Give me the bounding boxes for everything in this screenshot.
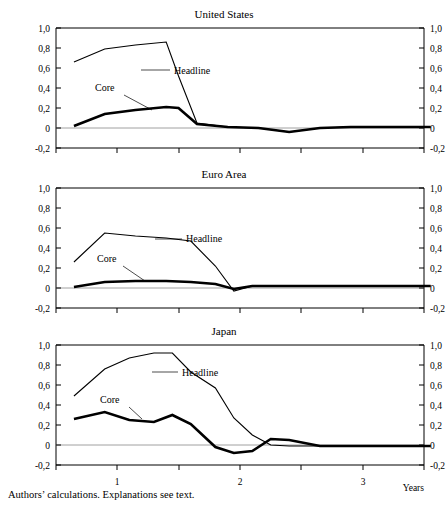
- y-label-left-4: 0,4: [38, 401, 50, 411]
- y-ticks-right: [419, 28, 424, 148]
- leader-line-core: [124, 95, 152, 110]
- y-label-left-7: -0,2: [35, 304, 50, 314]
- annotation-core: Core: [100, 394, 120, 405]
- y-label-left-7: -0,2: [35, 461, 50, 471]
- y-label-right-7: -0,2: [430, 304, 445, 314]
- plot-svg-united-states: 1,0 0,8 0,6 0,4 0,2 0 -0,2 1,0 0,8 0,6 0…: [0, 22, 448, 170]
- y-label-left-6: 0: [45, 441, 50, 451]
- x-label-3: 3: [361, 477, 366, 487]
- y-label-left-5: 0,2: [38, 421, 50, 431]
- figure-page: United States: [0, 0, 448, 509]
- series-line-core: [74, 412, 431, 453]
- y-label-right-3: 0,6: [430, 64, 442, 74]
- y-label-left-5: 0,2: [38, 104, 50, 114]
- plot-svg-euro-area: 1,0 0,8 0,6 0,4 0,2 0 -0,2 1,0 0,8 0,6 0…: [0, 182, 448, 330]
- y-label-left-2: 0,8: [38, 204, 50, 214]
- series-line-headline: [74, 353, 431, 446]
- plot-united-states: 1,0 0,8 0,6 0,4 0,2 0 -0,2 1,0 0,8 0,6 0…: [0, 22, 448, 170]
- y-label-left-6: 0: [45, 124, 50, 134]
- y-ticks-left: [56, 188, 61, 308]
- y-label-right-2: 0,8: [430, 44, 442, 54]
- y-label-right-2: 0,8: [430, 361, 442, 371]
- y-label-right-5: 0,2: [430, 264, 442, 274]
- panel-title-united-states: United States: [0, 8, 448, 20]
- y-label-left-5: 0,2: [38, 264, 50, 274]
- y-label-left-1: 1,0: [38, 184, 50, 194]
- leader-line-core: [123, 266, 145, 281]
- y-label-left-4: 0,4: [38, 244, 50, 254]
- x-axis-title: Years: [403, 483, 425, 493]
- y-label-right-7: -0,2: [430, 461, 445, 471]
- x-ticks: [56, 308, 424, 313]
- footnote: Authors’ calculations. Explanations see …: [8, 489, 194, 500]
- y-label-left-4: 0,4: [38, 84, 50, 94]
- y-label-left-3: 0,6: [38, 64, 50, 74]
- y-label-left-2: 0,8: [38, 361, 50, 371]
- annotation-headline: Headline: [174, 65, 211, 76]
- leader-line-core: [129, 407, 142, 419]
- y-label-right-4: 0,4: [430, 84, 442, 94]
- panel-title-japan: Japan: [0, 325, 448, 337]
- annotation-core: Core: [95, 82, 115, 93]
- y-label-right-3: 0,6: [430, 381, 442, 391]
- y-label-right-4: 0,4: [430, 401, 442, 411]
- x-ticks: [56, 465, 424, 470]
- y-label-left-1: 1,0: [38, 341, 50, 351]
- x-ticks: [56, 148, 424, 153]
- y-label-right-7: -0,2: [430, 144, 445, 154]
- panel-title-euro-area: Euro Area: [0, 168, 448, 180]
- plot-euro-area: 1,0 0,8 0,6 0,4 0,2 0 -0,2 1,0 0,8 0,6 0…: [0, 182, 448, 330]
- y-label-right-1: 1,0: [430, 24, 442, 34]
- y-label-right-5: 0,2: [430, 421, 442, 431]
- annotation-headline: Headline: [182, 367, 219, 378]
- annotation-headline: Headline: [186, 233, 223, 244]
- annotation-core: Core: [97, 253, 117, 264]
- y-label-right-6: 0: [430, 441, 435, 451]
- y-ticks-right: [419, 188, 424, 308]
- plot-japan: 1,0 0,8 0,6 0,4 0,2 0 -0,2 1,0 0,8 0,6 0…: [0, 339, 448, 499]
- y-label-right-3: 0,6: [430, 224, 442, 234]
- y-label-left-1: 1,0: [38, 24, 50, 34]
- y-label-left-7: -0,2: [35, 144, 50, 154]
- y-label-left-3: 0,6: [38, 381, 50, 391]
- y-label-left-3: 0,6: [38, 224, 50, 234]
- y-ticks-left: [56, 345, 61, 465]
- y-label-right-4: 0,4: [430, 244, 442, 254]
- x-label-2: 2: [238, 477, 243, 487]
- y-label-left-2: 0,8: [38, 44, 50, 54]
- y-label-right-1: 1,0: [430, 184, 442, 194]
- y-label-right-1: 1,0: [430, 341, 442, 351]
- y-label-right-2: 0,8: [430, 204, 442, 214]
- y-label-left-6: 0: [45, 284, 50, 294]
- plot-svg-japan: 1,0 0,8 0,6 0,4 0,2 0 -0,2 1,0 0,8 0,6 0…: [0, 339, 448, 499]
- x-label-1: 1: [115, 477, 120, 487]
- series-line-headline: [74, 42, 431, 132]
- y-ticks-left: [56, 28, 61, 148]
- y-label-right-6: 0: [430, 124, 435, 134]
- y-label-right-5: 0,2: [430, 104, 442, 114]
- y-label-right-6: 0: [430, 284, 435, 294]
